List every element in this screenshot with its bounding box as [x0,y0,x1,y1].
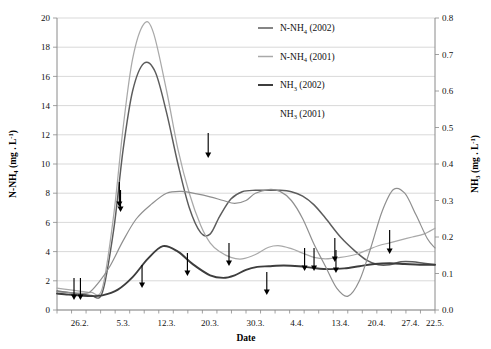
y-tick-label-right: 0.3 [442,196,454,206]
sampling-arrow [264,272,270,295]
arrow-head [332,257,338,263]
y-tick-label-left: 18 [41,42,51,52]
chart-container: 02468101214161820 0.00.10.20.30.40.50.60… [0,0,491,349]
y-axis-left-ticks: 02468101214161820 [41,13,57,315]
y-tick-label-left: 8 [46,188,51,198]
x-tick-label: 4.4. [290,318,304,328]
y-tick-label-right: 0.5 [442,123,454,133]
arrow-head [264,290,270,296]
gridlines [57,18,435,310]
y-tick-label-left: 6 [46,218,51,228]
y-tick-label-right: 0.2 [442,232,453,242]
sampling-arrow [205,133,211,158]
legend-item-nh3-2001[interactable]: NH3 (2001) [280,109,325,120]
arrow-head [118,207,124,213]
arrow-head [139,283,145,289]
legend-label: N-NH4 (2002) [280,23,335,34]
arrow-head [333,268,339,274]
legend-label: NH3 (2002) [280,80,325,91]
y-tick-label-right: 0.6 [442,86,454,96]
y-tick-label-left: 14 [41,101,51,111]
legend-item-n-nh4-2001[interactable]: N-NH4 (2001) [258,52,335,63]
legend-label: N-NH4 (2001) [280,52,335,63]
y-tick-label-left: 10 [41,159,51,169]
y-tick-label-right: 0.4 [442,159,454,169]
arrow-head [302,266,308,272]
y-tick-label-left: 2 [46,276,51,286]
legend-item-nh3-2002[interactable]: NH3 (2002) [258,80,325,91]
y-tick-label-left: 0 [46,305,51,315]
sampling-arrow [77,278,83,300]
y-tick-label-left: 4 [46,247,51,257]
arrow-head [205,153,211,159]
x-tick-label: 20.4. [367,318,385,328]
axis-titles: N-NH4 (mg . L-1)NH3 (mg . L-1)Date [7,130,481,343]
x-tick-label: 30.3. [246,318,264,328]
x-tick-label: 26.2. [71,318,89,328]
y-tick-label-left: 12 [41,130,50,140]
x-tick-label: 22.5. [426,318,444,328]
x-tick-label: 27.4. [401,318,419,328]
x-tick-label: 12.3. [158,318,176,328]
ammonia-timeseries-chart: 02468101214161820 0.00.10.20.30.40.50.60… [0,0,491,349]
series-line-nh3-2001 [57,188,435,296]
x-axis-title: Date [237,333,256,343]
sampling-arrow [71,278,77,300]
x-tick-label: 13.4. [332,318,350,328]
sampling-arrow [226,243,232,266]
x-tick-label: 20.3. [201,318,219,328]
y-tick-label-right: 0.8 [442,13,454,23]
legend-label: NH3 (2001) [280,109,325,120]
arrow-head [77,295,83,301]
y-tick-label-right: 0.0 [442,305,454,315]
arrow-head [184,271,190,277]
arrow-head [71,295,77,301]
data-series-group [57,22,435,298]
y-tick-label-right: 0.7 [442,50,454,60]
legend-item-n-nh4-2002[interactable]: N-NH4 (2002) [258,23,335,34]
arrow-head [226,261,232,267]
series-line-nh3-2002 [57,246,435,296]
y-axis-right-title: NH3 (mg . L-1) [469,135,481,193]
series-line-n-nh4-2001 [57,22,435,295]
y-tick-label-left: 16 [41,72,51,82]
y-axis-left-title: N-NH4 (mg . L-1) [7,130,19,198]
y-axis-right-ticks: 0.00.10.20.30.40.50.60.70.8 [435,13,454,315]
x-tick-label: 5.3. [116,318,130,328]
y-tick-label-left: 20 [41,13,51,23]
y-tick-label-right: 0.1 [442,269,453,279]
x-axis-ticks: 26.2.5.3.12.3.20.3.30.3.4.4.13.4.20.4.27… [57,310,444,328]
